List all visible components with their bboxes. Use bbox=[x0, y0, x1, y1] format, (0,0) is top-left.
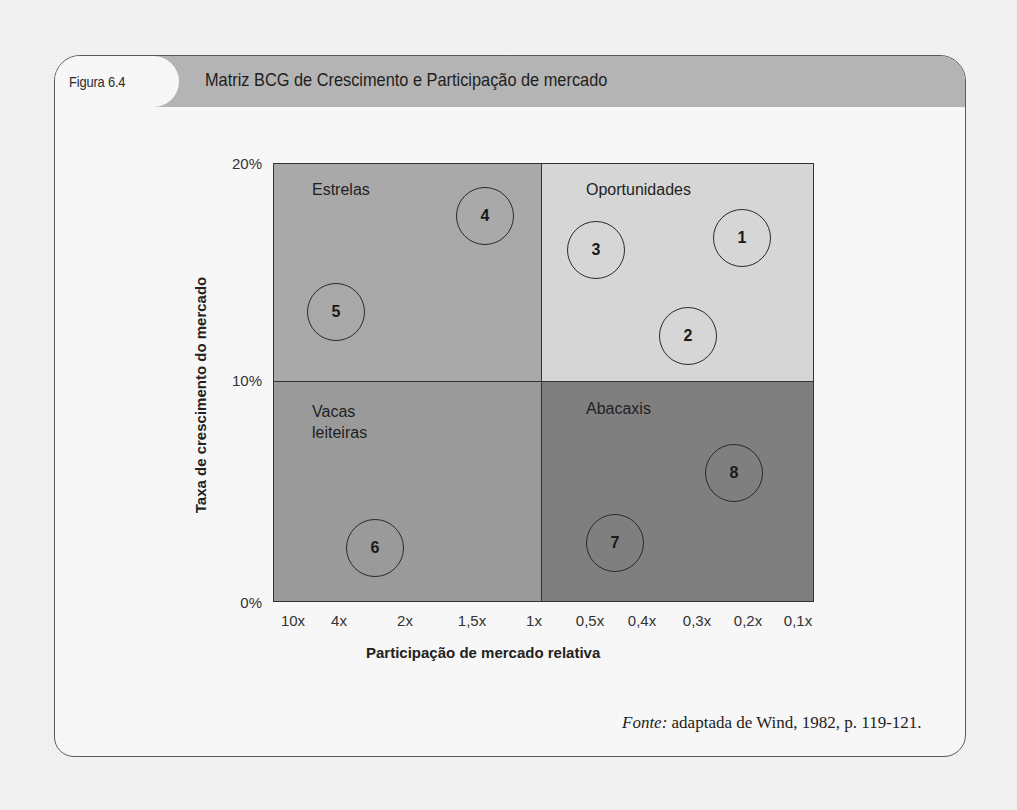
x-tick-2x: 2x bbox=[397, 612, 413, 629]
x-tick-0-5x: 0,5x bbox=[576, 612, 604, 629]
quadrant-label-estrelas: Estrelas bbox=[312, 180, 370, 201]
quadrant-label-vacas-leiteiras: Vacas leiteiras bbox=[312, 402, 367, 444]
quadrant-abacaxis: Abacaxis bbox=[542, 382, 813, 601]
bubble-6: 6 bbox=[346, 519, 404, 577]
bubble-2: 2 bbox=[659, 307, 717, 365]
x-tick-0-3x: 0,3x bbox=[683, 612, 711, 629]
figure-label-tab: Figura 6.4 bbox=[55, 56, 179, 107]
y-axis-title: Taxa de crescimento do mercado bbox=[192, 277, 209, 513]
x-tick-4x: 4x bbox=[331, 612, 347, 629]
x-tick-10x: 10x bbox=[281, 612, 305, 629]
y-tick-0: 0% bbox=[222, 594, 262, 611]
figure-title-bar: Figura 6.4 Matriz BCG de Crescimento e P… bbox=[55, 56, 965, 107]
y-tick-20: 20% bbox=[222, 155, 262, 172]
source-prefix: Fonte: bbox=[622, 713, 667, 732]
source-text: adaptada de Wind, 1982, p. 119-121. bbox=[667, 713, 921, 732]
x-tick-0-1x: 0,1x bbox=[784, 612, 812, 629]
bcg-matrix: Estrelas Oportunidades Vacas leiteiras A… bbox=[273, 163, 814, 602]
x-tick-0-4x: 0,4x bbox=[628, 612, 656, 629]
y-tick-10: 10% bbox=[222, 372, 262, 389]
quadrant-label-abacaxis: Abacaxis bbox=[586, 399, 651, 420]
bubble-8: 8 bbox=[705, 444, 763, 502]
bubble-1: 1 bbox=[713, 209, 771, 267]
bubble-7: 7 bbox=[586, 514, 644, 572]
figure-title: Matriz BCG de Crescimento e Participação… bbox=[205, 69, 607, 91]
quadrant-label-line1: Vacas bbox=[312, 403, 355, 420]
bubble-5: 5 bbox=[307, 283, 365, 341]
quadrant-label-line2: leiteiras bbox=[312, 424, 367, 441]
figure-source: Fonte: adaptada de Wind, 1982, p. 119-12… bbox=[622, 713, 922, 733]
bubble-4: 4 bbox=[456, 187, 514, 245]
x-tick-0-2x: 0,2x bbox=[734, 612, 762, 629]
bubble-3: 3 bbox=[567, 221, 625, 279]
quadrant-vacas-leiteiras: Vacas leiteiras bbox=[274, 382, 542, 601]
x-tick-1x: 1x bbox=[526, 612, 542, 629]
figure-label: Figura 6.4 bbox=[69, 73, 125, 90]
x-axis-title: Participação de mercado relativa bbox=[366, 644, 600, 661]
x-tick-1-5x: 1,5x bbox=[458, 612, 486, 629]
quadrant-label-oportunidades: Oportunidades bbox=[586, 180, 691, 201]
